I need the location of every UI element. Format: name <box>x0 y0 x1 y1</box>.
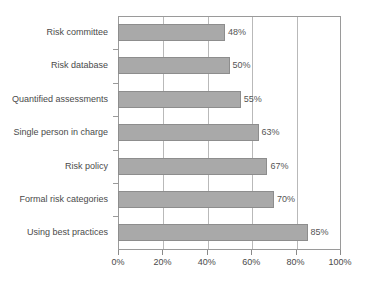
x-axis-ticks <box>118 250 341 256</box>
bar-value-0: 48% <box>225 24 246 41</box>
category-label-5: Formal risk categories <box>0 183 113 216</box>
category-label-6: Using best practices <box>0 216 113 249</box>
bar-risk-policy <box>118 158 267 175</box>
bar-value-1: 50% <box>230 57 251 74</box>
x-axis-label-40: 40% <box>198 257 216 267</box>
x-tick-40 <box>207 250 208 255</box>
category-label-0: Risk committee <box>0 16 113 49</box>
bar-using-best-practices <box>118 224 308 241</box>
category-label-1: Risk database <box>0 49 113 82</box>
bar-band: 85% <box>118 216 341 249</box>
bar-value-3: 63% <box>259 124 280 141</box>
x-tick-60 <box>251 250 252 255</box>
bar-series: 48% 50% 55% 63% 67% 70% 85% <box>118 16 341 250</box>
bar-risk-database <box>118 57 230 74</box>
bar-value-2: 55% <box>241 91 262 108</box>
bar-single-person-in-charge <box>118 124 259 141</box>
x-tick-100 <box>340 250 341 255</box>
x-axis-label-20: 20% <box>153 257 171 267</box>
category-axis: Risk committee Risk database Quantified … <box>0 16 113 250</box>
bar-band: 50% <box>118 49 341 82</box>
bar-band: 48% <box>118 16 341 49</box>
x-tick-0 <box>118 250 119 255</box>
x-axis-label-100: 100% <box>328 257 351 267</box>
category-label-4: Risk policy <box>0 150 113 183</box>
bar-risk-committee <box>118 24 225 41</box>
x-axis-label-0: 0% <box>111 257 124 267</box>
bar-chart: Risk committee Risk database Quantified … <box>0 0 376 285</box>
bar-band: 63% <box>118 116 341 149</box>
bar-band: 70% <box>118 183 341 216</box>
x-axis-label-60: 60% <box>242 257 260 267</box>
bar-formal-risk-categories <box>118 191 274 208</box>
bar-value-6: 85% <box>308 224 329 241</box>
bar-band: 67% <box>118 150 341 183</box>
category-label-2: Quantified assessments <box>0 83 113 116</box>
x-tick-80 <box>296 250 297 255</box>
bar-value-5: 70% <box>274 191 295 208</box>
x-axis-label-80: 80% <box>287 257 305 267</box>
x-tick-20 <box>162 250 163 255</box>
bar-band: 55% <box>118 83 341 116</box>
x-axis-labels: 0% 20% 40% 60% 80% 100% <box>0 257 376 271</box>
category-label-3: Single person in charge <box>0 116 113 149</box>
bar-value-4: 67% <box>267 158 288 175</box>
bar-quantified-assessments <box>118 91 241 108</box>
